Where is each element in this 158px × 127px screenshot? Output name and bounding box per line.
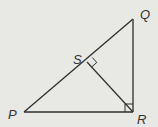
triangle-diagram: Q S P R (0, 0, 158, 127)
vertex-label-q: Q (140, 7, 150, 22)
vertex-label-r: R (137, 112, 146, 127)
vertex-label-s: S (73, 52, 82, 67)
diagram-svg: Q S P R (0, 0, 158, 127)
right-angle-marker-s (92, 58, 97, 68)
vertex-label-p: P (8, 107, 17, 122)
